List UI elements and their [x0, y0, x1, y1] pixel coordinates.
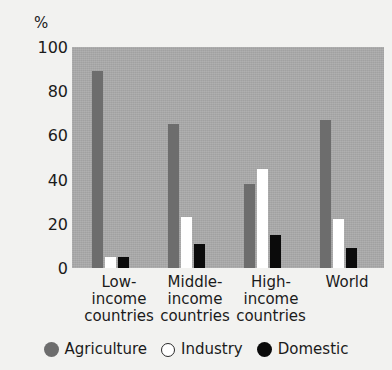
bar-world-agriculture — [320, 120, 331, 268]
y-tick-0: 0 — [8, 261, 68, 277]
bar-world-industry — [333, 219, 344, 268]
bar-middle-income-agriculture — [168, 124, 179, 268]
legend-swatch-circle-icon — [161, 343, 175, 357]
plot-area — [72, 47, 384, 268]
bar-middle-income-domestic — [194, 244, 205, 268]
bar-world-domestic — [346, 248, 357, 268]
bar-high-income-domestic — [270, 235, 281, 268]
bar-chart-figure: % 100 80 60 40 20 0 Low- income — [0, 0, 392, 370]
y-tick-20: 20 — [8, 217, 68, 233]
bar-low-income-industry — [105, 257, 116, 268]
bar-middle-income-industry — [181, 217, 192, 268]
category-label-world: World — [295, 274, 392, 291]
bar-group-low-income — [92, 47, 152, 268]
legend-swatch-circle-icon — [44, 342, 59, 357]
y-tick-60: 60 — [8, 128, 68, 144]
legend-item-industry: Industry — [161, 342, 243, 357]
category-label-line: countries — [219, 308, 323, 325]
bar-group-world — [320, 47, 380, 268]
legend-label-industry: Industry — [181, 342, 243, 357]
bar-group-high-income — [244, 47, 304, 268]
bar-group-middle-income — [168, 47, 228, 268]
y-tick-40: 40 — [8, 173, 68, 189]
legend-swatch-circle-icon — [257, 342, 272, 357]
y-tick-80: 80 — [8, 84, 68, 100]
legend-label-agriculture: Agriculture — [65, 342, 148, 357]
category-label-line: World — [295, 274, 392, 291]
bar-high-income-agriculture — [244, 184, 255, 268]
legend-item-domestic: Domestic — [257, 342, 349, 357]
legend-label-domestic: Domestic — [278, 342, 349, 357]
bar-high-income-industry — [257, 169, 268, 268]
bar-low-income-domestic — [118, 257, 129, 268]
y-axis-unit-label: % — [34, 16, 48, 31]
bar-low-income-agriculture — [92, 71, 103, 268]
category-label-line: income — [219, 291, 323, 308]
y-tick-100: 100 — [8, 40, 68, 56]
chart-legend: Agriculture Industry Domestic — [0, 342, 392, 357]
legend-item-agriculture: Agriculture — [44, 342, 148, 357]
